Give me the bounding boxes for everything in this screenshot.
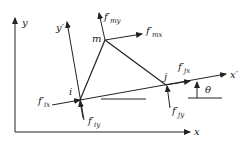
force-fjx-label: f′jx [177,61,190,75]
local-x-label: x′ [230,69,239,80]
force-fmx-label: f′mx [145,25,163,39]
force-fmy-label: f′my [103,11,122,25]
force-fmx-arrow [105,34,142,40]
local-y-axis [67,22,84,120]
force-fix-arrow [52,100,80,105]
theta-label: θ [205,84,211,95]
triangle-element [80,40,166,100]
global-axes: y x [15,17,200,137]
force-fix-label: f′ix [37,95,50,109]
force-fiy-label: f′iy [87,115,101,129]
force-fjy-arrow [167,86,170,108]
local-y-label: y′ [55,22,65,33]
force-fjx-arrow [166,81,190,85]
node-m-label: m [92,33,101,44]
element-diagram: y x y′ x′ θ i m j f′my f′mx f′ix f′iy f′… [0,0,252,146]
global-x-label: x [194,126,200,137]
node-i-label: i [69,86,72,97]
force-fjy-label: f′jy [171,105,185,119]
global-y-label: y [21,17,28,28]
node-j-label: j [162,71,167,82]
